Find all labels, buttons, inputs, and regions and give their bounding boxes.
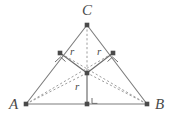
figure-canvas (0, 0, 174, 121)
label-vertex-b: B (155, 97, 164, 112)
geometry-figure: C A B r r r (0, 0, 174, 121)
right-angle-mark-base-icon (92, 98, 97, 103)
point-incenter (85, 71, 90, 76)
label-radius-left: r (70, 46, 74, 57)
point-tangent-right (111, 51, 116, 56)
segment-side-cb (87, 25, 147, 104)
segment-side-ca (26, 25, 87, 104)
label-radius-bottom: r (75, 81, 79, 92)
point-tangent-left (58, 51, 63, 56)
point-c (85, 23, 90, 28)
label-vertex-a: A (9, 97, 18, 112)
point-b (145, 102, 150, 107)
label-radius-right: r (97, 46, 101, 57)
point-a (24, 102, 29, 107)
segment-bisector-b (87, 73, 147, 104)
point-foot-base (85, 102, 90, 107)
label-vertex-c: C (82, 3, 92, 18)
